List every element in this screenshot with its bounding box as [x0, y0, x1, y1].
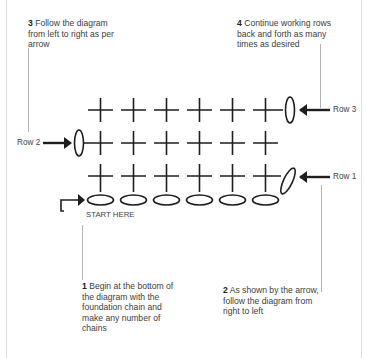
foundation-chain	[88, 195, 279, 205]
row2-turning-chain	[75, 130, 84, 156]
row3-turning-chain	[286, 97, 295, 123]
row3-arrow-icon	[299, 104, 330, 116]
row1-label: Row 1	[333, 172, 356, 181]
step1-note: 1 Begin at the bottom of the diagram wit…	[82, 281, 184, 334]
row1-turning-chain	[278, 166, 298, 195]
step2-note: 2 As shown by the arrow, follow the diag…	[223, 285, 323, 317]
step3-note: 3 Follow the diagram from left to right …	[28, 18, 123, 50]
step2-number: 2	[223, 285, 228, 295]
step1-text: Begin at the bottom of the diagram with …	[82, 281, 173, 333]
step4-note: 4 Continue working rows back and forth a…	[237, 18, 332, 50]
step3-number: 3	[28, 18, 33, 28]
step4-text: Continue working rows back and forth as …	[237, 18, 331, 49]
start-arrow-icon	[61, 194, 85, 211]
row2-arrow-icon	[43, 137, 72, 149]
step3-text: Follow the diagram from left to right as…	[28, 18, 114, 49]
row2-label: Row 2	[17, 138, 40, 147]
leader-lines	[29, 44, 322, 292]
step4-number: 4	[237, 18, 242, 28]
row1-arrow-icon	[299, 171, 330, 183]
row3-label: Row 3	[333, 105, 356, 114]
row2-stitches	[83, 131, 278, 155]
row3-stitches	[88, 98, 283, 122]
step1-number: 1	[82, 281, 87, 291]
start-here-label: START HERE	[86, 210, 135, 219]
step2-text: As shown by the arrow, follow the diagra…	[223, 285, 319, 316]
row1-stitches	[88, 164, 281, 192]
